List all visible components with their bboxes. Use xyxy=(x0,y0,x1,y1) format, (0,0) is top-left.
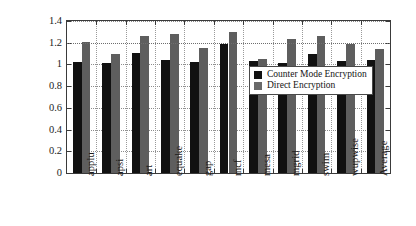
x-axis-tick xyxy=(302,169,303,173)
bar xyxy=(102,63,111,173)
y-axis-tick xyxy=(67,151,71,152)
x-axis-tick-label: art xyxy=(143,165,154,176)
gridline-vertical xyxy=(126,21,127,173)
x-axis-tick-label: swim xyxy=(320,153,331,176)
y-axis-tick xyxy=(386,64,390,65)
x-axis-tick xyxy=(184,169,185,173)
y-axis-tick xyxy=(386,130,390,131)
x-axis-tick xyxy=(243,169,244,173)
x-axis-tick xyxy=(331,21,332,25)
x-axis-tick-label: mgrid xyxy=(290,150,301,176)
y-axis-tick-label: 0.2 xyxy=(2,145,62,156)
legend-item: Direct Encryption xyxy=(254,80,367,91)
gridline-vertical xyxy=(155,21,156,173)
y-axis-tick xyxy=(67,64,71,65)
gridline-vertical xyxy=(361,21,362,173)
gridline-vertical xyxy=(184,21,185,173)
y-axis-tick xyxy=(67,108,71,109)
x-axis-tick xyxy=(273,169,274,173)
gridline-vertical xyxy=(96,21,97,173)
bar xyxy=(73,62,82,173)
chart-legend: Counter Mode Encryption Direct Encryptio… xyxy=(249,66,373,95)
y-axis-tick-label: 1.2 xyxy=(2,36,62,47)
bar xyxy=(140,36,149,173)
y-axis-tick xyxy=(67,130,71,131)
y-axis-tick xyxy=(67,21,71,22)
bar xyxy=(220,44,229,173)
y-axis-tick xyxy=(67,86,71,87)
y-axis-tick-label: 0.4 xyxy=(2,123,62,134)
x-axis-tick xyxy=(126,21,127,25)
x-axis-tick xyxy=(243,21,244,25)
x-axis-tick xyxy=(214,21,215,25)
bar xyxy=(161,60,170,173)
x-axis-tick-label: equake xyxy=(173,146,184,176)
x-axis-tick xyxy=(273,21,274,25)
gridline-vertical xyxy=(273,21,274,173)
gridline-vertical xyxy=(243,21,244,173)
reference-line xyxy=(67,43,390,44)
legend-label: Direct Encryption xyxy=(267,80,335,91)
bar xyxy=(190,62,199,173)
plot-area xyxy=(66,20,391,174)
x-axis-tick-label: gap xyxy=(202,161,213,176)
y-axis-tick xyxy=(386,21,390,22)
x-axis-tick-label: apsi xyxy=(114,159,125,176)
y-axis-tick xyxy=(386,86,390,87)
x-axis-tick-label: applu xyxy=(85,152,96,176)
x-axis-tick-label: wupwise xyxy=(349,138,360,176)
plot-inner xyxy=(67,21,390,173)
x-axis-tick xyxy=(214,169,215,173)
gridline-horizontal xyxy=(67,21,390,22)
gridline-vertical xyxy=(214,21,215,173)
x-axis-tick-label: Average xyxy=(378,141,389,176)
x-axis-tick xyxy=(184,21,185,25)
x-axis-tick xyxy=(155,21,156,25)
y-axis-tick-label: 0.8 xyxy=(2,80,62,91)
gridline-vertical xyxy=(302,21,303,173)
bar xyxy=(132,53,141,174)
x-axis-tick-label: mcf xyxy=(232,159,243,176)
legend-swatch-icon xyxy=(254,82,262,90)
y-axis-tick-label: 1.4 xyxy=(2,15,62,26)
y-axis-tick-label: 1 xyxy=(2,58,62,69)
y-axis-tick xyxy=(386,108,390,109)
x-axis-tick xyxy=(96,21,97,25)
legend-label: Counter Mode Encryption xyxy=(267,69,367,80)
bar xyxy=(229,32,238,173)
y-axis-tick-label: 0 xyxy=(2,167,62,178)
x-axis-tick xyxy=(155,169,156,173)
x-axis-tick xyxy=(361,169,362,173)
x-axis-tick xyxy=(126,169,127,173)
x-axis-tick xyxy=(302,21,303,25)
x-axis-tick xyxy=(361,21,362,25)
x-axis-tick xyxy=(331,169,332,173)
legend-swatch-icon xyxy=(254,71,262,79)
x-axis-tick-label: mesa xyxy=(261,154,272,176)
y-axis-tick-label: 0.6 xyxy=(2,101,62,112)
bar xyxy=(199,48,208,173)
gridline-vertical xyxy=(331,21,332,173)
bar xyxy=(111,54,120,173)
legend-item: Counter Mode Encryption xyxy=(254,69,367,80)
chart-figure: Normalized EDP 00.20.40.60.811.21.4 appl… xyxy=(0,0,416,226)
x-axis-tick xyxy=(96,169,97,173)
